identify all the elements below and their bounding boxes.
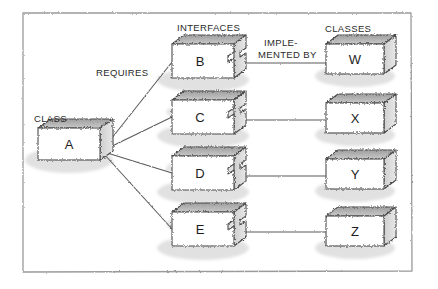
node-interface-c[interactable] (172, 91, 246, 134)
node-label-c: C (195, 110, 204, 125)
node-interface-d[interactable] (172, 147, 246, 190)
node-class-z[interactable] (326, 207, 396, 246)
node-label-d: D (195, 166, 204, 181)
label-implemented-by-line1: IMPLE- (264, 37, 298, 48)
label-requires: REQUIRES (96, 67, 148, 78)
label-class: CLASS (34, 113, 67, 124)
node-label-w: W (349, 52, 362, 67)
node-class-y[interactable] (326, 150, 396, 189)
node-interface-e[interactable] (172, 203, 246, 246)
label-classes: CLASSES (325, 23, 371, 34)
node-label-a: A (65, 137, 74, 152)
node-class-x[interactable] (326, 94, 396, 133)
node-label-x: X (351, 111, 360, 126)
node-label-y: Y (351, 167, 360, 182)
label-implemented-by-line2: MENTED BY (258, 49, 317, 60)
uml-component-diagram: A B C D E (0, 0, 438, 289)
label-interfaces: INTERFACES (177, 22, 240, 33)
node-class-a[interactable] (38, 119, 113, 160)
diagram-canvas: A B C D E (0, 0, 438, 289)
node-label-z: Z (351, 224, 359, 239)
node-label-e: E (196, 222, 205, 237)
node-interface-b[interactable] (172, 35, 246, 78)
node-label-b: B (196, 54, 205, 69)
